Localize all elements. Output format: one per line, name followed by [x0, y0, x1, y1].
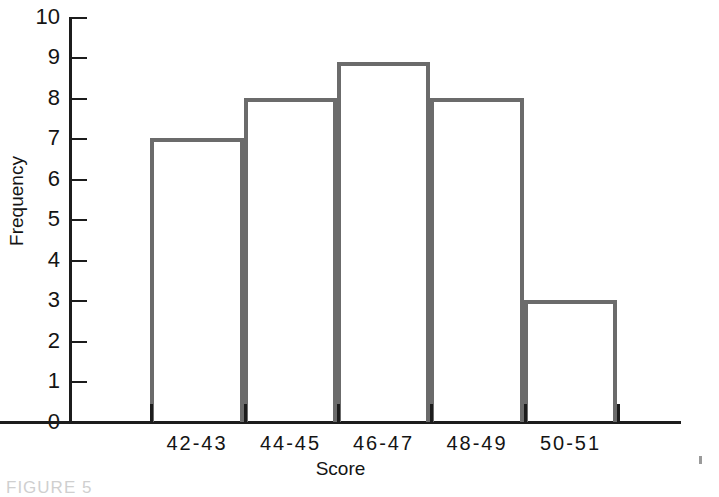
y-tick-label-wrap: 9 — [0, 46, 60, 68]
y-tick-label-8: 8 — [14, 87, 60, 109]
x-tick-label-42-43: 42-43 — [150, 431, 244, 455]
y-tick-label-3: 3 — [14, 289, 60, 311]
y-axis-line — [69, 17, 72, 424]
x-tick-mark-0 — [150, 404, 153, 422]
y-tick-mark-1 — [72, 381, 87, 383]
y-tick-label-10: 10 — [14, 6, 60, 28]
x-tick-mark-3 — [430, 404, 433, 422]
y-axis-title: Frequency — [6, 121, 28, 281]
y-tick-label-wrap: 2 — [0, 330, 60, 352]
histogram-bar-46-47 — [337, 62, 430, 422]
y-tick-mark-9 — [72, 57, 87, 59]
y-tick-mark-7 — [72, 138, 87, 140]
y-tick-label-wrap: 8 — [0, 87, 60, 109]
x-tick-mark-1 — [244, 404, 247, 422]
x-tick-label-46-47: 46-47 — [337, 431, 430, 455]
histogram-bar-48-49 — [430, 98, 524, 422]
figure-caption: FIGURE 5 — [6, 479, 92, 497]
x-tick-mark-5 — [617, 404, 620, 422]
x-axis-title: Score — [0, 458, 681, 480]
histogram-bar-44-45 — [244, 98, 337, 422]
y-tick-mark-2 — [72, 341, 87, 343]
y-tick-mark-10 — [72, 17, 87, 19]
x-tick-label-44-45: 44-45 — [244, 431, 337, 455]
y-tick-mark-8 — [72, 98, 87, 100]
page-corner-mark — [699, 456, 702, 464]
y-tick-label-wrap: 3 — [0, 289, 60, 311]
histogram-bar-50-51 — [524, 300, 617, 422]
y-tick-label-1: 1 — [14, 370, 60, 392]
y-tick-label-wrap: 1 — [0, 370, 60, 392]
x-tick-label-50-51: 50-51 — [524, 431, 617, 455]
histogram-bar-42-43 — [150, 138, 244, 422]
y-tick-mark-3 — [72, 300, 87, 302]
y-tick-mark-4 — [72, 260, 87, 262]
x-tick-mark-4 — [524, 404, 527, 422]
x-tick-label-48-49: 48-49 — [430, 431, 524, 455]
y-tick-mark-6 — [72, 179, 87, 181]
x-tick-mark-2 — [337, 404, 340, 422]
y-tick-label-9: 9 — [14, 46, 60, 68]
y-tick-label-wrap: 10 — [0, 6, 60, 28]
y-tick-mark-5 — [72, 219, 87, 221]
y-tick-label-2: 2 — [14, 330, 60, 352]
